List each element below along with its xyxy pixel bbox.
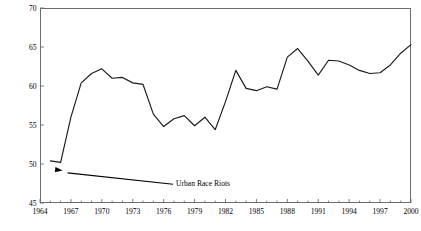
x-tick-2000: 2000 <box>403 207 418 216</box>
x-tick-1967: 1967 <box>63 207 78 216</box>
chart-canvas <box>40 8 411 203</box>
y-tick-55: 55 <box>29 121 37 130</box>
x-tick-1991: 1991 <box>311 207 326 216</box>
x-tick-1973: 1973 <box>125 207 140 216</box>
y-tick-70: 70 <box>29 4 37 13</box>
x-tick-1985: 1985 <box>249 207 264 216</box>
annotation-label: Urban Race Riots <box>176 179 230 188</box>
plot-area: 706560555045 196419671970197319761979198… <box>40 8 411 203</box>
x-tick-1982: 1982 <box>218 207 233 216</box>
chart-figure: Support for Federal Aid to Cities (Perce… <box>0 0 421 231</box>
y-tick-60: 60 <box>29 82 37 91</box>
x-tick-1994: 1994 <box>342 207 357 216</box>
x-tick-1970: 1970 <box>94 207 109 216</box>
y-tick-50: 50 <box>29 160 37 169</box>
x-tick-1997: 1997 <box>372 207 387 216</box>
x-tick-1988: 1988 <box>280 207 295 216</box>
x-tick-1976: 1976 <box>156 207 171 216</box>
y-tick-65: 65 <box>29 43 37 52</box>
annotation-arrow <box>55 167 173 184</box>
data-line-series-0 <box>50 45 411 163</box>
axis-ticks <box>40 8 411 203</box>
x-tick-1979: 1979 <box>187 207 202 216</box>
x-tick-1964: 1964 <box>32 207 47 216</box>
